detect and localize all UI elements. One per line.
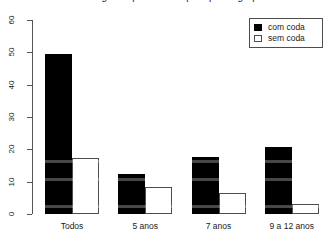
y-axis-tick-label: 0 (6, 202, 18, 226)
legend-item-label: sem coda (268, 33, 305, 44)
x-axis-label-9-a-12-anos: 9 a 12 anos (247, 221, 331, 231)
bar-sem-coda (72, 158, 99, 214)
y-axis-tick-label: 20 (6, 137, 18, 161)
y-axis-tick (27, 20, 32, 21)
bar-sem-coda (219, 193, 246, 214)
chart-legend: com codasem coda (249, 18, 323, 48)
bar-com-coda (265, 147, 292, 214)
y-axis-tick (27, 149, 32, 150)
bar-sem-coda (145, 187, 172, 214)
y-axis-tick (27, 117, 32, 118)
legend-item: com coda (254, 22, 318, 33)
chart-title: As categorias por idade e por tipo de gr… (0, 0, 331, 2)
legend-item: sem coda (254, 33, 318, 44)
y-axis-tick-label: 60 (6, 8, 18, 32)
y-axis-tick-label: 30 (6, 105, 18, 129)
y-axis-tick-label: 50 (6, 40, 18, 64)
bar-com-coda (45, 54, 72, 214)
bar-com-coda (192, 157, 219, 214)
plot-area (33, 20, 326, 214)
y-axis-tick-label: 40 (6, 73, 18, 97)
filled-square-icon (254, 24, 262, 31)
y-axis-tick (27, 182, 32, 183)
y-axis-tick (27, 214, 32, 215)
y-axis-tick-label: 10 (6, 170, 18, 194)
y-axis-tick (27, 52, 32, 53)
bar-sem-coda (292, 204, 319, 214)
y-axis-tick (27, 85, 32, 86)
legend-item-label: com coda (268, 22, 305, 33)
open-square-icon (254, 35, 262, 42)
bar-com-coda (118, 174, 145, 214)
bar-chart: As categorias por idade e por tipo de gr… (0, 0, 331, 241)
